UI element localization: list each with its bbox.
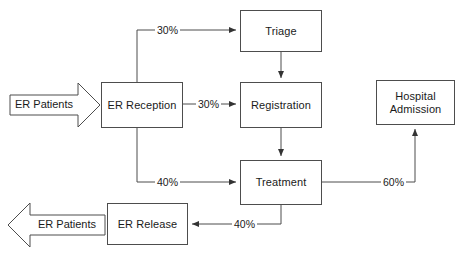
edge-label-treatment-to-er-release-text: 40%	[234, 218, 255, 230]
node-registration[interactable]: Registration	[240, 82, 322, 128]
edge-reception-to-treatment	[137, 127, 236, 182]
edge-label-reception-to-treatment-text: 40%	[157, 176, 178, 188]
node-triage-label: Triage	[265, 25, 296, 38]
edge-label-treatment-to-hospital-admission-text: 60%	[383, 176, 404, 188]
edge-label-reception-to-triage-text: 30%	[157, 24, 178, 36]
edge-label-reception-to-triage: 30%	[155, 24, 180, 36]
node-treatment[interactable]: Treatment	[240, 160, 322, 205]
output-arrow-er-patients-text: ER Patients	[38, 218, 96, 230]
node-hospital-admission-label-line2: Admission	[390, 103, 442, 116]
node-er-reception-label: ER Reception	[107, 99, 176, 112]
edge-label-treatment-to-er-release: 40%	[232, 218, 257, 230]
node-treatment-label: Treatment	[256, 176, 307, 189]
node-er-release-label: ER Release	[118, 218, 178, 231]
edge-label-reception-to-registration-text: 30%	[198, 98, 219, 110]
node-triage[interactable]: Triage	[240, 10, 322, 52]
node-er-release[interactable]: ER Release	[107, 203, 188, 245]
edge-label-reception-to-registration: 30%	[196, 98, 221, 110]
node-hospital-admission-label-line1: Hospital	[395, 90, 436, 103]
flowchart-diagram: ER Reception Triage Registration Treatme…	[0, 0, 464, 256]
edge-reception-to-triage	[137, 30, 236, 82]
node-hospital-admission[interactable]: Hospital Admission	[376, 80, 455, 125]
node-er-reception[interactable]: ER Reception	[101, 82, 183, 128]
edge-treatment-to-hospital-admission	[322, 129, 415, 182]
node-registration-label: Registration	[251, 99, 311, 112]
output-arrow-er-patients-label: ER Patients	[32, 218, 102, 231]
input-arrow-er-patients-text: ER Patients	[15, 98, 73, 110]
edge-label-reception-to-treatment: 40%	[155, 176, 180, 188]
input-arrow-er-patients-label: ER Patients	[12, 98, 76, 111]
edge-label-treatment-to-hospital-admission: 60%	[381, 176, 406, 188]
